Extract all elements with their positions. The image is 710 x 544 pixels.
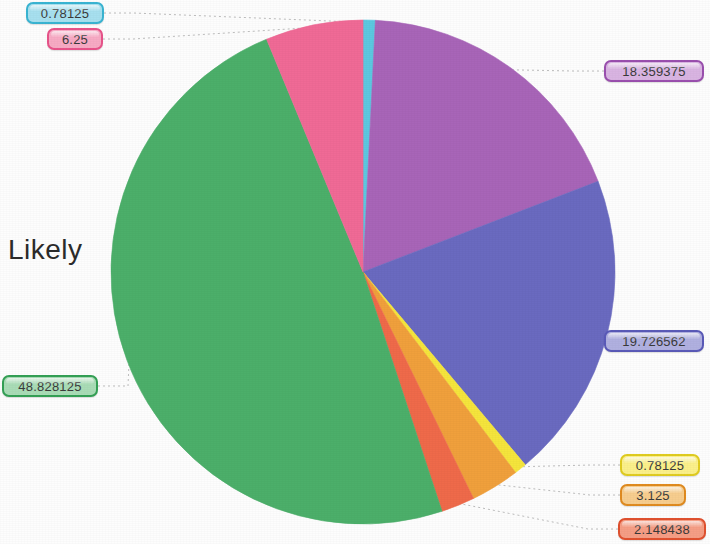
callout-purple: 18.359375 [604,60,704,82]
leader-line [519,465,620,467]
chart-canvas: Likely 0.78125 6.25 18.359375 19.726562 … [0,0,710,544]
callout-blue: 19.726562 [604,330,704,352]
leader-line [509,70,604,71]
callout-cyan: 0.78125 [26,2,104,24]
pie-chart [0,0,710,544]
callout-yellow: 0.78125 [620,454,700,476]
callout-pink: 6.25 [47,28,103,50]
leader-line [457,503,618,529]
pie-slices [111,20,615,524]
leader-line [104,13,369,23]
axis-label-likely: Likely [8,234,83,266]
leader-line [494,484,620,495]
callout-red: 2.148438 [618,518,706,540]
callout-orange: 3.125 [620,484,686,506]
callout-green: 48.828125 [2,375,98,397]
leader-line [98,359,129,386]
